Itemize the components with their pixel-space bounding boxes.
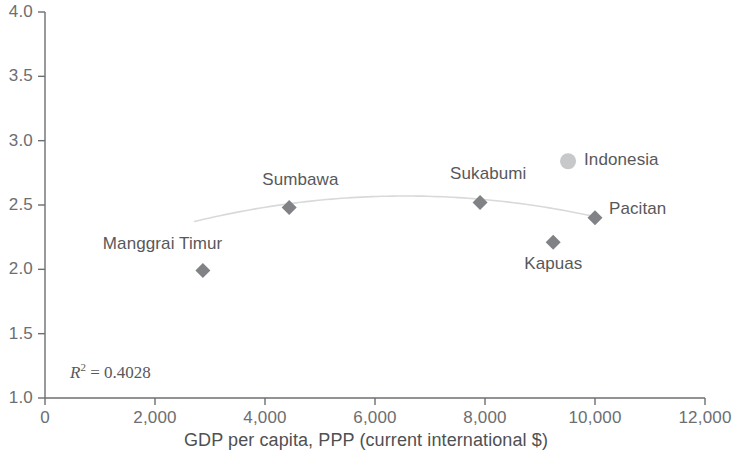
- marker-sukabumi: [473, 195, 488, 210]
- y-tick-4.0: 4.0: [0, 2, 33, 22]
- x-axis-title: GDP per capita, PPP (current internation…: [0, 430, 732, 451]
- label-pacitan: Pacitan: [609, 199, 666, 219]
- axis-lines: [45, 12, 705, 398]
- x-tick-6000: 6,000: [353, 408, 397, 428]
- plot-area: [0, 0, 732, 459]
- x-tick-10000: 10,000: [568, 408, 621, 428]
- marker-indonesia: [560, 153, 576, 169]
- y-tick-2.5: 2.5: [0, 195, 33, 215]
- tick-marks: [38, 12, 705, 405]
- x-tick-2000: 2,000: [133, 408, 177, 428]
- label-manggrai-timur: Manggrai Timur: [103, 234, 223, 254]
- x-tick-0: 0: [40, 408, 50, 428]
- marker-kapuas: [546, 235, 561, 250]
- r-squared-annotation: R2 = 0.4028: [70, 361, 151, 383]
- trendline: [195, 196, 600, 221]
- x-tick-12000: 12,000: [678, 408, 731, 428]
- marker-pacitan: [588, 210, 603, 225]
- r-squared-equals: =: [86, 363, 104, 382]
- y-tick-3.0: 3.0: [0, 131, 33, 151]
- x-tick-8000: 8,000: [463, 408, 507, 428]
- label-indonesia: Indonesia: [584, 150, 659, 170]
- marker-manggrai-timur: [195, 263, 210, 278]
- r-squared-value: 0.4028: [104, 363, 151, 382]
- label-sukabumi: Sukabumi: [450, 164, 526, 184]
- x-tick-4000: 4,000: [243, 408, 287, 428]
- y-tick-1.0: 1.0: [0, 388, 33, 408]
- y-tick-2.0: 2.0: [0, 259, 33, 279]
- scatter-chart: 1.01.52.02.53.03.54.0 02,0004,0006,0008,…: [0, 0, 732, 459]
- y-tick-3.5: 3.5: [0, 66, 33, 86]
- label-kapuas: Kapuas: [524, 254, 582, 274]
- label-sumbawa: Sumbawa: [262, 170, 338, 190]
- y-tick-1.5: 1.5: [0, 324, 33, 344]
- r-squared-symbol: R: [70, 363, 80, 382]
